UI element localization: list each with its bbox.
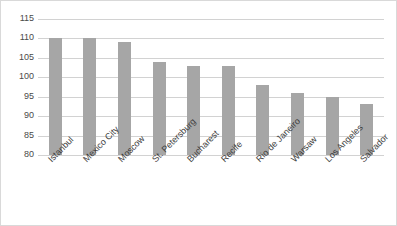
bar-chart: 11511010510095908580 IstanbulMexico City… (0, 0, 397, 226)
y-tick-label: 100 (4, 72, 34, 81)
bar (153, 62, 166, 155)
y-tick-label: 90 (4, 111, 34, 120)
y-tick-label: 85 (4, 131, 34, 140)
y-axis: 11511010510095908580 (1, 19, 34, 155)
y-tick-label: 115 (4, 14, 34, 23)
bar (187, 66, 200, 155)
bar (49, 38, 62, 155)
y-tick-label: 110 (4, 33, 34, 42)
y-tick-label: 95 (4, 92, 34, 101)
x-axis: IstanbulMexico CityMoscowSt. PetersburgB… (38, 157, 384, 225)
y-tick-label: 105 (4, 53, 34, 62)
y-tick-label: 80 (4, 150, 34, 159)
bar (83, 38, 96, 155)
bar (118, 42, 131, 155)
